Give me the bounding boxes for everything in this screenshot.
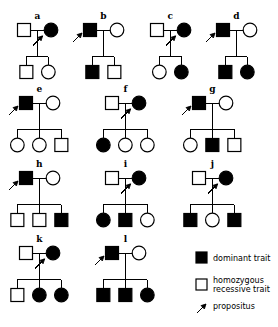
pedigree-c-child2-female-affected <box>175 65 189 79</box>
pedigree-j-father-male-unaffected <box>193 172 206 185</box>
pedigree-c-mother-female-affected <box>177 23 191 37</box>
pedigree-i-propositus-arrow-icon <box>121 184 131 194</box>
pedigree-j-propositus-arrow-icon <box>208 184 218 194</box>
pedigree-label-d: d <box>233 11 240 21</box>
pedigree-label-k: k <box>36 234 43 244</box>
pedigree-label-b: b <box>100 11 106 21</box>
pedigree-f-father-male-unaffected <box>106 97 119 110</box>
pedigree-e-propositus-arrow-icon <box>9 106 19 116</box>
pedigree-g-propositus-arrow-icon <box>182 106 192 116</box>
pedigree-d-child1-male-affected <box>219 66 232 79</box>
pedigree-h-propositus-arrow-icon <box>9 181 19 191</box>
pedigree-a: a <box>18 11 58 79</box>
pedigree-j-mother-female-affected <box>219 171 233 185</box>
pedigree-j-child2-female-unaffected <box>206 213 220 227</box>
pedigree-j-child1-male-affected <box>184 214 197 227</box>
legend-propositus-label: propositus <box>213 302 255 311</box>
pedigree-k-child1-male-unaffected <box>11 289 24 302</box>
pedigree-h-child3-male-affected <box>55 214 68 227</box>
pedigree-label-e: e <box>36 84 42 94</box>
pedigree-k-child2-female-affected <box>33 288 47 302</box>
pedigree-h-mother-female-unaffected <box>46 171 60 185</box>
pedigree-k-child3-female-affected <box>55 288 69 302</box>
pedigree-k-propositus-arrow-icon <box>35 259 45 269</box>
pedigree-d-child2-female-affected <box>241 65 255 79</box>
pedigree-f-propositus-arrow-icon <box>121 109 131 119</box>
pedigree-j-child3-male-affected <box>228 214 241 227</box>
pedigree-l-child1-male-affected <box>97 289 110 302</box>
pedigree-a-child2-female-unaffected <box>42 65 56 79</box>
pedigree-e-child2-female-unaffected <box>33 138 47 152</box>
pedigree-c-propositus-arrow-icon <box>166 36 176 46</box>
pedigree-l-mother-female-unaffected <box>132 246 146 260</box>
pedigree-label-g: g <box>209 84 216 94</box>
pedigree-k: k <box>11 234 68 302</box>
pedigree-b-mother-female-unaffected <box>110 23 124 37</box>
pedigree-canvas: abcdefghijkl dominant traithomozygousrec… <box>0 0 278 327</box>
pedigree-g-child3-male-unaffected <box>228 139 241 152</box>
pedigree-g-mother-female-unaffected <box>219 96 233 110</box>
pedigree-f: f <box>97 84 155 152</box>
pedigree-i-mother-female-affected <box>132 171 146 185</box>
pedigree-a-propositus-arrow-icon <box>33 36 43 46</box>
pedigree-label-i: i <box>124 159 128 169</box>
pedigree-h-father-male-affected <box>20 172 33 185</box>
pedigree-k-mother-female-affected <box>46 246 60 260</box>
pedigree-g-child1-female-unaffected <box>184 138 198 152</box>
pedigree-label-h: h <box>36 159 43 169</box>
pedigree-c-father-male-unaffected <box>151 24 164 37</box>
pedigree-a-child1-male-unaffected <box>20 66 33 79</box>
pedigree-b-child1-male-affected <box>86 66 99 79</box>
pedigree-e-child3-male-unaffected <box>55 139 68 152</box>
pedigree-c-child1-female-unaffected <box>153 65 167 79</box>
pedigree-label-l: l <box>124 234 128 244</box>
pedigree-l: l <box>95 234 155 302</box>
pedigree-i-child3-female-unaffected <box>141 213 155 227</box>
pedigree-i-child2-male-affected <box>119 214 132 227</box>
pedigree-l-father-male-affected <box>106 247 119 260</box>
pedigree-b: b <box>73 11 124 79</box>
pedigree-g-child2-male-affected <box>206 139 219 152</box>
pedigree-i: i <box>97 159 155 227</box>
pedigree-i-child1-female-affected <box>97 213 111 227</box>
pedigree-label-f: f <box>123 84 128 94</box>
legend-dominant-swatch-icon <box>196 252 207 263</box>
legend-recessive-label-line2: recessive trait <box>213 285 270 294</box>
pedigree-a-mother-female-affected <box>44 23 58 37</box>
legend-dominant-label: dominant trait <box>213 254 270 263</box>
pedigree-h: h <box>9 159 68 227</box>
pedigree-d: d <box>206 11 257 79</box>
legend-propositus-arrow-icon <box>197 304 207 314</box>
pedigree-b-father-male-affected <box>84 24 97 37</box>
pedigree-l-child2-male-affected <box>119 289 132 302</box>
legend-recessive-swatch-icon <box>196 279 207 290</box>
pedigree-e-mother-female-unaffected <box>46 96 60 110</box>
pedigree-b-propositus-arrow-icon <box>73 33 83 43</box>
pedigree-l-child3-female-affected <box>141 288 155 302</box>
pedigree-figure: abcdefghijkl dominant traithomozygousrec… <box>0 0 278 327</box>
pedigree-h-child1-male-unaffected <box>11 214 24 227</box>
pedigree-f-mother-female-affected <box>132 96 146 110</box>
pedigree-f-child1-female-affected <box>97 138 111 152</box>
pedigree-d-propositus-arrow-icon <box>206 33 216 43</box>
pedigree-f-child3-female-unaffected <box>141 138 155 152</box>
pedigree-a-father-male-unaffected <box>18 24 31 37</box>
pedigree-f-child2-female-unaffected <box>119 138 133 152</box>
pedigree-g: g <box>182 84 241 152</box>
pedigree-e: e <box>9 84 68 152</box>
legend-recessive-label-line1: homozygous <box>213 276 264 285</box>
legend: dominant traithomozygousrecessive traitp… <box>196 252 270 314</box>
pedigree-l-propositus-arrow-icon <box>95 256 105 266</box>
pedigree-e-child1-female-unaffected <box>11 138 25 152</box>
pedigree-d-mother-female-unaffected <box>243 23 257 37</box>
pedigree-j: j <box>184 159 241 227</box>
pedigree-label-c: c <box>168 11 174 21</box>
pedigree-e-father-male-affected <box>20 97 33 110</box>
pedigree-i-father-male-unaffected <box>106 172 119 185</box>
pedigree-c: c <box>151 11 191 79</box>
pedigree-h-child2-male-unaffected <box>33 214 46 227</box>
pedigree-k-father-male-unaffected <box>20 247 33 260</box>
pedigree-d-father-male-affected <box>217 24 230 37</box>
pedigree-g-father-male-affected <box>193 97 206 110</box>
pedigree-b-child2-male-unaffected <box>108 66 121 79</box>
